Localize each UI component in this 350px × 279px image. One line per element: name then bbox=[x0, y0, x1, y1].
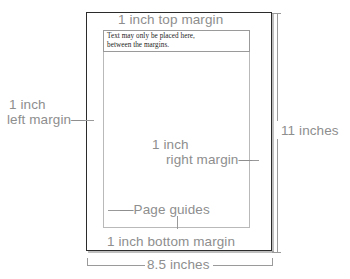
page-sheet-shadow-bottom bbox=[88, 251, 274, 253]
page-height-label: 11 inches bbox=[281, 124, 339, 139]
right-margin-label-line-2: right margin— bbox=[166, 153, 252, 168]
left-margin-label-line-2: left margin— bbox=[7, 113, 85, 128]
width-dimension-line-left bbox=[87, 265, 145, 266]
width-dimension-line-right bbox=[213, 265, 273, 266]
body-text-line-2: between the margins. bbox=[107, 41, 249, 50]
page-guides-leader-tick bbox=[177, 216, 178, 229]
page-guides-label: —Page guides bbox=[120, 203, 210, 218]
right-margin-label: 1 inch right margin— bbox=[152, 138, 252, 167]
height-dimension-cap-bottom bbox=[272, 252, 281, 253]
left-margin-label: 1 inch left margin— bbox=[9, 98, 85, 127]
body-text-line-1: Text may only be placed here, bbox=[107, 32, 249, 41]
left-margin-label-line-1: 1 inch bbox=[9, 97, 46, 112]
bottom-margin-label: 1 inch bottom margin bbox=[107, 235, 235, 250]
right-margin-label-line-1: 1 inch bbox=[152, 137, 189, 152]
width-dimension-cap-left bbox=[87, 258, 88, 266]
body-text-box: Text may only be placed here, between th… bbox=[103, 30, 250, 52]
height-dimension-line-lower bbox=[277, 139, 278, 252]
page-width-label: 8.5 inches bbox=[147, 258, 210, 273]
height-dimension-line-upper bbox=[277, 13, 278, 121]
width-dimension-cap-right bbox=[272, 258, 273, 266]
page-guides-rectangle bbox=[103, 30, 250, 228]
top-margin-label: 1 inch top margin bbox=[118, 13, 223, 28]
height-dimension-cap-top bbox=[272, 13, 281, 14]
page-sheet-shadow-right bbox=[272, 14, 274, 253]
page-margins-diagram: Text may only be placed here, between th… bbox=[0, 0, 350, 279]
